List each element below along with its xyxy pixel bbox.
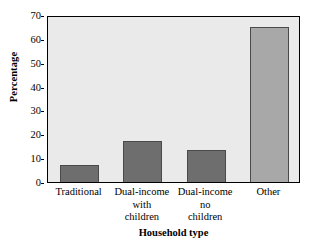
x-tick-label-line: Dual-income xyxy=(174,186,237,199)
y-tick-mark xyxy=(41,16,44,17)
y-tick-mark xyxy=(41,88,44,89)
y-tick-label: 30 xyxy=(15,106,41,116)
bar xyxy=(187,150,226,182)
x-axis-title: Household type xyxy=(47,227,300,239)
x-axis-tick-labels: TraditionalDual-incomewithchildrenDual-i… xyxy=(47,186,300,226)
y-tick-label: 50 xyxy=(15,59,41,69)
bar xyxy=(60,165,99,182)
y-tick-label: 60 xyxy=(15,35,41,45)
x-tick-label-line: no xyxy=(174,199,237,212)
x-tick-label-line: Dual-income xyxy=(110,186,173,199)
x-tick-label: Other xyxy=(237,186,300,199)
y-tick-mark xyxy=(41,159,44,160)
x-tick-label-line: with xyxy=(110,199,173,212)
bars-layer xyxy=(48,17,299,182)
y-tick-mark xyxy=(41,111,44,112)
bar xyxy=(123,141,162,182)
y-tick-label: 0 xyxy=(15,178,41,188)
y-tick-mark xyxy=(41,40,44,41)
bar-chart-figure: Percentage 010203040506070 TraditionalDu… xyxy=(0,0,320,241)
x-tick-label-line: children xyxy=(174,211,237,224)
x-tick-label-line: Other xyxy=(237,186,300,199)
y-tick-label: 20 xyxy=(15,130,41,140)
y-tick-label: 70 xyxy=(15,11,41,21)
y-tick-mark xyxy=(41,64,44,65)
y-tick-mark xyxy=(41,135,44,136)
y-tick-label: 40 xyxy=(15,83,41,93)
x-tick-label: Traditional xyxy=(47,186,110,199)
bar xyxy=(250,27,289,182)
x-tick-label: Dual-incomewithchildren xyxy=(110,186,173,224)
x-tick-label-line: Traditional xyxy=(47,186,110,199)
plot-area xyxy=(47,16,300,183)
y-tick-label: 10 xyxy=(15,154,41,164)
y-axis-tick-labels: 010203040506070 xyxy=(16,16,44,183)
x-tick-label-line: children xyxy=(110,211,173,224)
y-tick-mark xyxy=(41,183,44,184)
x-tick-label: Dual-incomenochildren xyxy=(174,186,237,224)
